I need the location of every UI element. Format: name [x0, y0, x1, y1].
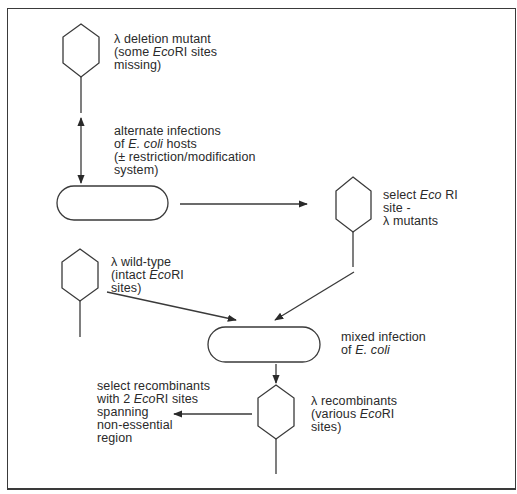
flow-diagram — [0, 0, 517, 494]
phage-wild-type-icon — [62, 249, 98, 337]
label-select-recombinants: select recombinants with 2 EcoRI sites s… — [97, 380, 210, 445]
phage-deletion-mutant-icon — [63, 24, 99, 113]
label-recombinants: λ recombinants (various EcoRI sites) — [311, 395, 397, 434]
phage-recombinants-icon — [258, 385, 294, 474]
arrow-wild-type-to-mixed — [107, 292, 236, 320]
ecoli-host-2-capsule — [208, 327, 320, 362]
phage-site-mutants-icon — [336, 177, 371, 267]
label-mixed-infection: mixed infection of E. coli — [341, 331, 426, 357]
arrow-site-mutants-to-mixed — [275, 272, 354, 320]
label-alternate-infections: alternate infections of E. coli hosts (±… — [114, 125, 256, 177]
label-select-site-mutants: select Eco RI site - λ mutants — [383, 189, 458, 228]
label-wild-type: λ wild-type (intact EcoRI sites) — [111, 256, 184, 295]
ecoli-host-1-capsule — [57, 186, 168, 220]
label-deletion-mutant: λ deletion mutant (some EcoRI sites miss… — [114, 33, 217, 72]
